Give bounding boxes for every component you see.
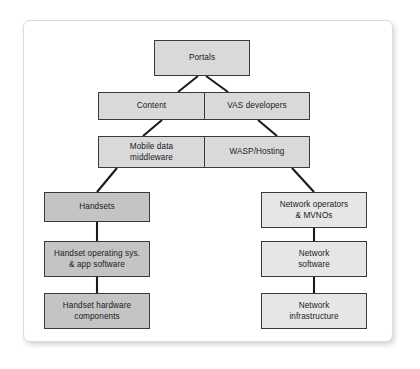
node-network-infrastructure-label: Network infrastructure <box>289 300 338 322</box>
node-handsets[interactable]: Handsets <box>44 192 150 222</box>
node-handset-operating-system-label: Handset operating sys. & app software <box>54 248 140 270</box>
node-content-label: Content <box>137 100 166 111</box>
row-middleware-wasp: Mobile data middleware WASP/Hosting <box>98 136 310 168</box>
node-network-operators-mvnos[interactable]: Network operators & MVNOs <box>261 192 367 228</box>
diagram-canvas: Portals Content VAS developers Mobile da… <box>0 0 420 369</box>
node-vas-developers[interactable]: VAS developers <box>204 93 309 119</box>
row-content-vas: Content VAS developers <box>98 92 310 120</box>
node-network-operators-mvnos-label: Network operators & MVNOs <box>280 199 349 221</box>
node-vas-developers-label: VAS developers <box>227 100 287 111</box>
node-wasp-hosting[interactable]: WASP/Hosting <box>204 137 309 167</box>
node-handset-operating-system[interactable]: Handset operating sys. & app software <box>44 241 150 277</box>
node-portals-label: Portals <box>189 52 215 63</box>
node-handset-hardware-components-label: Handset hardware components <box>63 300 132 322</box>
node-network-software[interactable]: Network software <box>261 241 367 277</box>
node-mobile-data-middleware-label: Mobile data middleware <box>130 141 173 163</box>
node-wasp-hosting-label: WASP/Hosting <box>229 146 284 157</box>
node-network-software-label: Network software <box>298 248 330 270</box>
node-network-infrastructure[interactable]: Network infrastructure <box>261 293 367 329</box>
node-content[interactable]: Content <box>99 93 204 119</box>
node-mobile-data-middleware[interactable]: Mobile data middleware <box>99 137 204 167</box>
node-portals[interactable]: Portals <box>154 40 250 76</box>
node-handset-hardware-components[interactable]: Handset hardware components <box>44 293 150 329</box>
node-handsets-label: Handsets <box>79 201 114 212</box>
